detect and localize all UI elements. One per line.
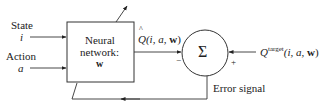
network-label-line1: Neural (85, 35, 115, 46)
error-signal-label: Error signal (213, 83, 265, 94)
plus-sign: + (231, 58, 236, 67)
action-label: Action (6, 51, 36, 62)
network-weights: w (96, 59, 103, 69)
action-symbol: a (18, 63, 24, 74)
qhat-label: ^Q(i, a, w) (138, 34, 181, 45)
network-label-line2: network: (80, 47, 119, 58)
error-feedback-line (72, 76, 207, 99)
state-label: State (11, 20, 33, 31)
feedback-diagonal (72, 83, 77, 99)
weight-update-arrow (116, 6, 127, 22)
state-symbol: i (20, 32, 23, 43)
qtarget-label: Qtarget(i, a, w) (260, 46, 319, 58)
minus-sign: − (176, 56, 181, 65)
neural-q-learning-diagram: State i Action a Neural network: w ^Q(i,… (0, 0, 327, 111)
sigma-symbol: Σ (198, 44, 207, 60)
